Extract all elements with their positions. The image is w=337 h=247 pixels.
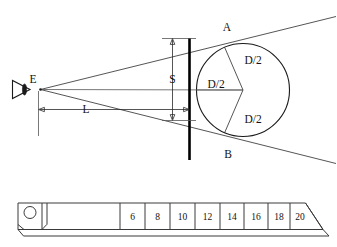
label-radius-top: D/2 bbox=[244, 54, 262, 66]
ruler-left-bevel bbox=[18, 225, 24, 230]
ruler-hole-icon bbox=[24, 207, 36, 219]
label-radius-center: D/2 bbox=[207, 78, 225, 90]
ruler-edge-3d bbox=[18, 230, 329, 237]
ruler-group: 6 8 10 12 14 16 18 20 bbox=[18, 203, 329, 236]
ruler-tick-label: 16 bbox=[251, 212, 261, 222]
eye-pupil-icon bbox=[22, 84, 26, 95]
diagram-svg: E A B S L D/2 D/2 D/2 bbox=[0, 0, 337, 247]
radius-line-top bbox=[225, 47, 244, 90]
ruler-tick-label: 18 bbox=[274, 212, 284, 222]
ruler-tick-label: 12 bbox=[203, 212, 213, 222]
figure-root: E A B S L D/2 D/2 D/2 bbox=[0, 0, 337, 247]
ruler-tick-label: 10 bbox=[178, 212, 188, 222]
label-B: B bbox=[224, 148, 232, 160]
label-E: E bbox=[29, 73, 36, 85]
ruler-tick-label: 6 bbox=[130, 212, 135, 222]
ruler-right-bevel bbox=[306, 203, 324, 230]
ruler-tick-label: 14 bbox=[227, 212, 237, 222]
eye-vertex-point bbox=[39, 88, 42, 91]
radius-line-bottom bbox=[225, 90, 244, 133]
ruler-tick-label: 20 bbox=[295, 212, 305, 222]
label-L: L bbox=[82, 103, 89, 115]
eye-icon bbox=[13, 81, 31, 99]
ruler-hole-panel-bevel bbox=[42, 203, 47, 230]
label-S: S bbox=[169, 73, 175, 85]
label-radius-bottom: D/2 bbox=[244, 113, 262, 125]
label-A: A bbox=[223, 21, 232, 33]
ruler-tick-label: 8 bbox=[155, 212, 160, 222]
